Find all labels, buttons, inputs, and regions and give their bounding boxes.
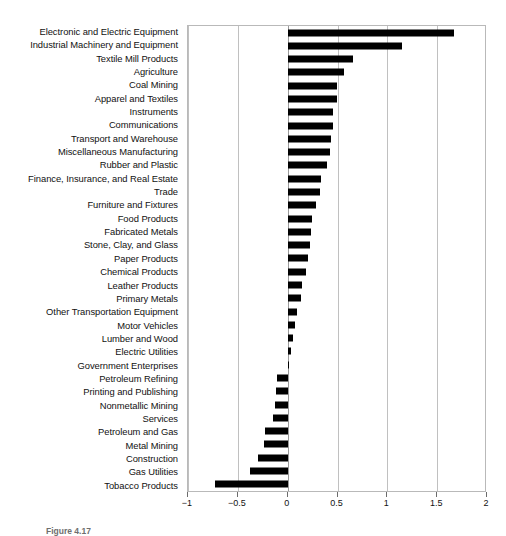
bar [288,361,289,368]
category-label: Lumber and Wood [0,332,183,345]
bar-row [188,464,485,477]
bar-row [188,172,485,185]
bar [288,162,327,169]
bar-row [188,318,485,331]
bar [288,255,308,262]
category-label: Metal Mining [0,439,183,452]
bar [288,268,306,275]
bar [288,202,316,209]
bar [288,308,297,315]
bar [273,414,288,421]
bar [288,215,312,222]
bar-row [188,331,485,344]
bar [258,454,288,461]
category-label: Electronic and Electric Equipment [0,25,183,38]
bar-row [188,159,485,172]
bar-row [188,358,485,371]
bar [277,374,288,381]
bar-row [188,424,485,437]
bar-row [188,385,485,398]
category-label: Furniture and Fixtures [0,198,183,211]
category-label: Communications [0,118,183,131]
bar [275,401,288,408]
bar [288,42,403,49]
bar [288,149,330,156]
bar [288,109,333,116]
figure-container: Electronic and Electric EquipmentIndustr… [0,0,506,536]
bar [288,281,302,288]
bar [288,175,321,182]
category-label: Transport and Warehouse [0,132,183,145]
axis-tick-label: 0 [284,498,289,508]
category-label: Rubber and Plastic [0,158,183,171]
bar-row [188,345,485,358]
bar-row [188,278,485,291]
plot-area [187,25,486,492]
category-label: Instruments [0,105,183,118]
category-label: Printing and Publishing [0,385,183,398]
category-label: Miscellaneous Manufacturing [0,145,183,158]
bar-row [188,132,485,145]
bar-row [188,79,485,92]
axis-tick-label: 2 [483,498,488,508]
category-label: Tobacco Products [0,479,183,492]
axis-tick [436,492,437,497]
bar-row [188,106,485,119]
category-label: Government Enterprises [0,359,183,372]
bar-row [188,451,485,464]
bar [288,135,331,142]
figure-caption: Figure 4.17 [46,526,91,536]
axis-tick-label: −1 [182,498,192,508]
bar-row [188,292,485,305]
axis-tick-label: −0.5 [228,498,246,508]
bar [265,428,288,435]
bar [288,348,291,355]
category-label: Textile Mill Products [0,52,183,65]
category-label: Primary Metals [0,292,183,305]
bar [264,441,288,448]
axis-tick [287,492,288,497]
category-label: Paper Products [0,252,183,265]
bar [288,69,345,76]
category-label: Trade [0,185,183,198]
bar-row [188,92,485,105]
category-label: Stone, Clay, and Glass [0,239,183,252]
axis-tick [337,492,338,497]
bar-row [188,39,485,52]
bar-row [188,265,485,278]
category-label: Motor Vehicles [0,319,183,332]
bar [288,242,310,249]
category-label: Electric Utilities [0,345,183,358]
axis-tick-label: 1.5 [430,498,443,508]
category-label: Coal Mining [0,78,183,91]
bar-row [188,478,485,491]
bar-row [188,305,485,318]
bar-row [188,438,485,451]
category-label: Apparel and Textiles [0,92,183,105]
bar-row [188,185,485,198]
bar [288,335,293,342]
bar [288,122,333,129]
category-label-column: Electronic and Electric EquipmentIndustr… [0,25,183,492]
category-label: Food Products [0,212,183,225]
category-label: Services [0,412,183,425]
category-label: Nonmetallic Mining [0,399,183,412]
bar-row [188,411,485,424]
category-label: Petroleum and Gas [0,425,183,438]
bar-row [188,53,485,66]
category-label: Agriculture [0,65,183,78]
category-label: Petroleum Refining [0,372,183,385]
bar-row [188,199,485,212]
bar-row [188,398,485,411]
bar [215,481,288,488]
bar-row [188,146,485,159]
bar-row [188,225,485,238]
axis-tick [486,492,487,497]
bar-row [188,26,485,39]
bar [288,56,354,63]
axis-tick [187,492,188,497]
category-label: Industrial Machinery and Equipment [0,38,183,51]
bar-row [188,119,485,132]
axis-tick-label: 1 [384,498,389,508]
x-axis: −1−0.500.511.52 [187,492,486,516]
